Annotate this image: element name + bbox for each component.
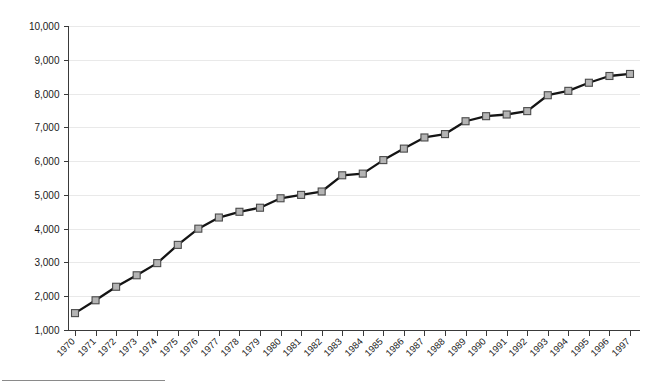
data-point-marker xyxy=(585,79,592,86)
data-point-marker xyxy=(359,170,366,177)
data-point-marker xyxy=(462,118,469,125)
data-point-marker xyxy=(195,225,202,232)
data-point-marker xyxy=(421,134,428,141)
y-tick-label: 6,000 xyxy=(34,156,59,167)
data-point-marker xyxy=(544,92,551,99)
data-point-marker xyxy=(154,260,161,267)
y-tick-label: 4,000 xyxy=(34,224,59,235)
y-tick-label: 1,000 xyxy=(34,325,59,336)
data-point-marker xyxy=(72,310,79,317)
data-point-marker xyxy=(236,208,243,215)
data-point-marker xyxy=(215,214,222,221)
data-point-marker xyxy=(113,283,120,290)
y-tick-label: 10,000 xyxy=(29,21,60,32)
y-tick-label: 3,000 xyxy=(34,257,59,268)
data-point-marker xyxy=(298,191,305,198)
data-point-marker xyxy=(318,188,325,195)
data-point-marker xyxy=(133,272,140,279)
data-point-marker xyxy=(174,241,181,248)
y-tick-label: 2,000 xyxy=(34,291,59,302)
data-point-marker xyxy=(627,70,634,77)
y-tick-label: 8,000 xyxy=(34,89,59,100)
data-point-marker xyxy=(524,108,531,115)
data-point-marker xyxy=(380,157,387,164)
y-tick-label: 9,000 xyxy=(34,55,59,66)
data-point-marker xyxy=(483,113,490,120)
chart-container: 1,0002,0003,0004,0005,0006,0007,0008,000… xyxy=(0,0,651,387)
line-chart: 1,0002,0003,0004,0005,0006,0007,0008,000… xyxy=(0,0,651,387)
data-point-marker xyxy=(257,204,264,211)
data-point-marker xyxy=(503,111,510,118)
data-point-marker xyxy=(565,87,572,94)
data-point-marker xyxy=(339,172,346,179)
data-point-marker xyxy=(442,131,449,138)
y-tick-label: 7,000 xyxy=(34,122,59,133)
y-tick-label: 5,000 xyxy=(34,190,59,201)
data-point-marker xyxy=(277,195,284,202)
data-point-marker xyxy=(92,297,99,304)
data-point-marker xyxy=(606,72,613,79)
data-point-marker xyxy=(400,145,407,152)
